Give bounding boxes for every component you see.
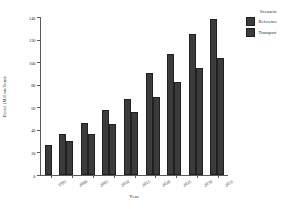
x-tick-label: 2035 [224, 179, 234, 188]
y-tick-label: 120 [29, 38, 35, 43]
bar-reference [124, 99, 131, 175]
bar-group [167, 17, 181, 175]
y-tick-label: 0 [33, 173, 35, 178]
bar-transport [196, 68, 203, 175]
x-tick-mark [197, 175, 198, 178]
y-tick-mark [37, 40, 40, 41]
x-tick-mark [155, 175, 156, 178]
bar-group [59, 17, 73, 175]
y-tick-label: 40 [31, 128, 35, 133]
x-tick-label: 2030 [203, 179, 213, 188]
y-tick-label: 20 [31, 150, 35, 155]
x-tick-mark [51, 175, 52, 178]
legend-swatch-icon [246, 28, 255, 37]
x-tick-mark [218, 175, 219, 178]
x-tick-label: 2000 [78, 179, 88, 188]
x-tick-label: 2015 [141, 179, 151, 188]
y-axis-title-text: Diesel (Million Tons) [2, 52, 7, 142]
y-tick-mark [37, 62, 40, 63]
chart-legend: Scenario ReferenceTransport [246, 9, 300, 40]
y-tick: 20 [37, 152, 40, 153]
x-tick-label: 2010 [120, 179, 130, 188]
y-tick-label: 140 [29, 15, 35, 20]
bar-group [102, 17, 116, 175]
bar-transport [174, 82, 181, 175]
legend-entries: ReferenceTransport [246, 17, 300, 38]
x-tick-label: 2005 [99, 179, 109, 188]
chart-figure: Diesel (Million Tons) 020406080100120140… [0, 0, 301, 209]
y-tick-mark [37, 17, 40, 18]
x-tick-label: 1995 [57, 179, 67, 188]
x-tick-mark [72, 175, 73, 178]
y-tick: 40 [37, 130, 40, 131]
x-tick-mark [93, 175, 94, 178]
bar-reference [146, 73, 153, 175]
bar-reference [59, 134, 66, 175]
y-tick: 120 [37, 40, 40, 41]
x-tick-label: 2020 [161, 179, 171, 188]
bar-reference [189, 34, 196, 175]
bar-reference [81, 123, 88, 175]
y-axis-title: Diesel (Million Tons) [2, 0, 12, 52]
bar-reference [167, 54, 174, 175]
x-tick-mark [114, 175, 115, 178]
legend-item-reference[interactable]: Reference [246, 17, 300, 26]
bar-reference [210, 19, 217, 175]
bar-group [124, 17, 138, 175]
legend-swatch-icon [246, 17, 255, 26]
y-tick-mark [37, 130, 40, 131]
legend-item-label: Transport [259, 30, 277, 35]
legend-item-label: Reference [259, 19, 278, 24]
bar-reference [45, 145, 52, 175]
plot-area: 020406080100120140 199520002005201020152… [40, 17, 228, 176]
y-tick: 140 [37, 17, 40, 18]
bar-group [81, 17, 95, 175]
bar-transport [217, 58, 224, 175]
bar-group [146, 17, 160, 175]
y-tick: 60 [37, 107, 40, 108]
y-tick: 80 [37, 85, 40, 86]
bar-group [189, 17, 203, 175]
y-tick-label: 100 [29, 60, 35, 65]
x-tick-mark [176, 175, 177, 178]
bar-reference [102, 110, 109, 175]
bar-transport [109, 124, 116, 175]
y-tick: 100 [37, 62, 40, 63]
y-tick-mark [37, 175, 40, 176]
bar-transport [153, 97, 160, 175]
x-axis-title: Year [40, 194, 228, 199]
bar-groups [41, 17, 228, 175]
y-tick: 0 [37, 175, 40, 176]
bar-transport [66, 141, 73, 175]
y-tick-mark [37, 152, 40, 153]
y-tick-label: 80 [31, 83, 35, 88]
bar-group [45, 17, 52, 175]
x-tick-label: 2025 [182, 179, 192, 188]
bar-transport [131, 112, 138, 175]
x-tick-mark [135, 175, 136, 178]
bar-transport [88, 134, 95, 175]
bar-group [210, 17, 224, 175]
legend-title: Scenario [260, 9, 300, 14]
y-tick-label: 60 [31, 105, 35, 110]
legend-item-transport[interactable]: Transport [246, 28, 300, 37]
y-tick-mark [37, 107, 40, 108]
y-tick-mark [37, 85, 40, 86]
